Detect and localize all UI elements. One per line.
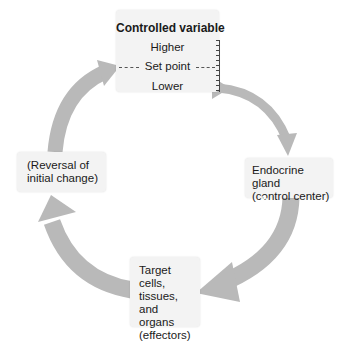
effectors-line4: (effectors) bbox=[139, 329, 200, 342]
scale-tick bbox=[216, 55, 219, 56]
scale-tick bbox=[216, 85, 219, 86]
scale-tick bbox=[216, 50, 219, 51]
scale-tick bbox=[216, 60, 219, 61]
scale-tick bbox=[216, 75, 219, 76]
effectors-line2: tissues, and bbox=[139, 290, 200, 316]
arrow-to-response bbox=[38, 195, 132, 290]
scale-tick bbox=[216, 45, 219, 46]
response-line1: (Reversal of bbox=[27, 159, 106, 172]
set-point-dashed-line-right bbox=[196, 67, 215, 68]
response-line2: initial change) bbox=[27, 172, 106, 185]
scale-tick bbox=[216, 90, 219, 91]
control-center-line1: Endocrine gland bbox=[252, 164, 333, 190]
scale-ruler bbox=[215, 40, 220, 92]
effectors-line1: Target cells, bbox=[139, 264, 200, 290]
scale-tick bbox=[216, 70, 219, 71]
scale-tick bbox=[216, 80, 219, 81]
control-center-box: Endocrine gland (control center) bbox=[245, 158, 333, 198]
controlled-variable-title: Controlled variable bbox=[116, 22, 219, 35]
set-point-dashed-line-left bbox=[119, 67, 139, 68]
arrow-to-control-center bbox=[212, 77, 297, 156]
effectors-box: Target cells, tissues, and organs (effec… bbox=[130, 257, 200, 327]
response-box: (Reversal of initial change) bbox=[17, 152, 106, 192]
scale-tick bbox=[216, 40, 219, 41]
arrow-to-controlled-variable bbox=[55, 60, 120, 152]
scale-tick bbox=[216, 65, 219, 66]
higher-label: Higher bbox=[116, 41, 219, 54]
effectors-line3: organs bbox=[139, 316, 200, 329]
controlled-variable-box: Controlled variable Higher Set point Low… bbox=[116, 10, 219, 92]
lower-label: Lower bbox=[116, 80, 219, 93]
